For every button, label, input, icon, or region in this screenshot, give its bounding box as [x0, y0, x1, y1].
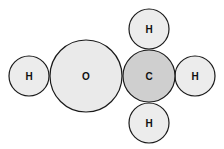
- atom-label: H: [145, 118, 152, 129]
- atom-label: H: [25, 71, 32, 82]
- atom-label: H: [191, 71, 198, 82]
- molecule-diagram: H O H H H C: [0, 0, 224, 149]
- atom-label: H: [145, 24, 152, 35]
- atom-hydrogen-top: H: [129, 9, 169, 49]
- atom-carbon: C: [123, 50, 175, 102]
- atom-oxygen: O: [50, 40, 122, 112]
- atom-hydrogen-bottom: H: [129, 103, 169, 143]
- atom-hydrogen-left: H: [9, 56, 49, 96]
- atom-label: O: [82, 71, 90, 82]
- molecule-svg: H O H H H C: [0, 0, 224, 149]
- atom-hydrogen-right: H: [175, 56, 215, 96]
- atom-label: C: [145, 71, 152, 82]
